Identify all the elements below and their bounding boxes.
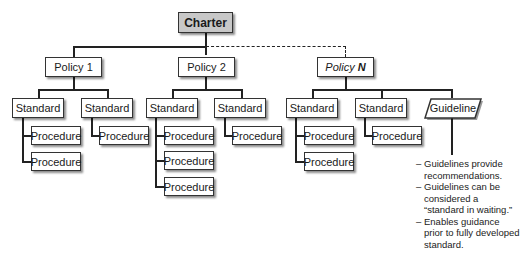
connector-std-n-1-up: [312, 89, 314, 98]
procedure-node: Procedure: [232, 126, 282, 145]
connector-std-n-1-down: [295, 117, 297, 162]
note-text: Guidelines provide recommendations.: [424, 158, 503, 181]
guideline-note: – Guidelines provide recommendations.: [416, 158, 520, 181]
connector-policy2-standards-horizontal: [172, 89, 242, 91]
note-text: Guidelines can be considered a “standard…: [424, 181, 512, 215]
charter-node: Charter: [178, 12, 233, 33]
procedure-node: Procedure: [164, 151, 214, 170]
connector-policy1-standards-horizontal: [38, 89, 108, 91]
connector-std-2-1-up: [172, 89, 174, 98]
procedure-node: Procedure: [31, 126, 81, 145]
guideline-label: Guideline: [424, 98, 482, 118]
policy-n-prefix: Policy: [325, 61, 354, 73]
standard-node: Standard: [12, 98, 64, 118]
connector-std-1-2-up: [107, 89, 109, 98]
standard-node: Standard: [286, 98, 338, 118]
note-bullet: –: [416, 158, 421, 170]
connector-std-n-2-down: [364, 117, 366, 136]
connector-std-1-2-down: [91, 117, 93, 136]
guideline-note: – Enables guidance prior to fully develo…: [416, 216, 520, 251]
connector-charter-down: [205, 33, 207, 55]
connector-std-2-2-down: [224, 117, 226, 136]
standard-node: Standard: [81, 98, 133, 118]
policy-n-node: Policy N: [317, 57, 374, 77]
connector-policy1-down: [73, 76, 75, 90]
connector-std-n-2-up: [381, 89, 383, 98]
procedure-node: Procedure: [31, 152, 81, 171]
guideline-note: – Guidelines can be considered a “standa…: [416, 181, 520, 216]
connector-std-1-1-down: [22, 117, 24, 162]
standard-node: Standard: [355, 98, 407, 118]
note-bullet: –: [416, 216, 421, 228]
standard-node: Standard: [146, 98, 198, 118]
connector-policies-horizontal: [73, 46, 206, 48]
guideline-node: Guideline: [424, 98, 480, 118]
connector-guideline-up: [451, 89, 453, 98]
standard-node: Standard: [214, 98, 266, 118]
connector-std-2-2-up: [241, 89, 243, 98]
policy-2-node: Policy 2: [178, 57, 235, 77]
connector-guideline-down: [451, 117, 453, 155]
connector-policy2-down: [205, 76, 207, 90]
guideline-notes: – Guidelines provide recommendations. – …: [416, 158, 520, 250]
policy-n-suffix: N: [358, 61, 366, 73]
connector-std-1-1-up: [38, 89, 40, 98]
connector-policy1-up: [73, 46, 75, 57]
procedure-node: Procedure: [372, 126, 422, 145]
procedure-node: Procedure: [164, 126, 214, 145]
procedure-node: Procedure: [304, 126, 354, 145]
procedure-node: Procedure: [304, 152, 354, 171]
connector-policy-n-dashed-horizontal: [206, 46, 346, 47]
note-text: Enables guidance prior to fully develope…: [424, 216, 520, 250]
note-bullet: –: [416, 181, 421, 193]
policy-1-node: Policy 1: [45, 57, 102, 77]
connector-policy-n-down: [345, 76, 347, 90]
connector-policy-n-dashed-vertical: [345, 46, 346, 57]
procedure-node: Procedure: [99, 126, 149, 145]
connector-std-2-1-down: [155, 117, 157, 187]
procedure-node: Procedure: [164, 177, 214, 196]
